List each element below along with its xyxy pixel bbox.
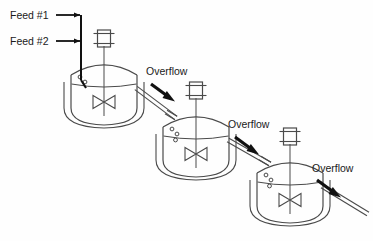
agitator-motor-drive bbox=[98, 30, 111, 47]
process-flow-diagram: Feed #1Feed #2OverflowOverflowOverflow bbox=[0, 0, 373, 241]
feed-header-pipe bbox=[81, 15, 86, 88]
overflow-label: Overflow bbox=[228, 118, 270, 130]
labels-layer: Feed #1Feed #2OverflowOverflowOverflow bbox=[10, 9, 354, 174]
overflow-pipe bbox=[227, 138, 271, 165]
overflow-inlet-stub bbox=[259, 156, 271, 165]
reactor-vessel bbox=[250, 128, 330, 226]
agitator-motor-drive bbox=[284, 128, 297, 145]
pipes-layer bbox=[135, 84, 369, 216]
inlet-droplet bbox=[269, 178, 273, 182]
reactor-vessel bbox=[64, 30, 144, 128]
inlet-droplet bbox=[264, 173, 268, 177]
overflow-pipe bbox=[135, 86, 177, 119]
diagram-canvas: Feed #1Feed #2OverflowOverflowOverflow bbox=[0, 0, 373, 241]
inlet-droplet bbox=[174, 138, 178, 142]
agitator-motor-drive bbox=[190, 82, 203, 99]
vessels-layer bbox=[64, 30, 330, 226]
inlet-droplet bbox=[170, 127, 174, 131]
overflow-arrow bbox=[235, 137, 259, 154]
feed-label: Feed #2 bbox=[10, 35, 49, 47]
arrow-shaft bbox=[151, 84, 167, 96]
inlet-droplet bbox=[268, 184, 272, 188]
pipe-wall-upper bbox=[321, 188, 367, 216]
overflow-arrow bbox=[317, 180, 341, 197]
overflow-label: Overflow bbox=[312, 162, 354, 174]
overflow-label: Overflow bbox=[146, 65, 188, 77]
feed-label: Feed #1 bbox=[10, 9, 49, 21]
inlet-droplet bbox=[175, 132, 179, 136]
